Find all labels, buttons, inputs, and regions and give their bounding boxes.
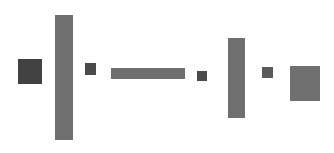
rect-8-medium-square: [290, 66, 320, 101]
rect-1-small-dark-square: [18, 59, 42, 84]
rect-5-tiny-square: [197, 71, 207, 81]
rect-3-tiny-square: [85, 63, 96, 75]
rect-6-tall-bar: [228, 38, 245, 118]
rect-2-tall-bar: [55, 15, 73, 140]
rect-4-long-horizontal-bar: [111, 68, 185, 79]
rect-7-tiny-square: [262, 67, 273, 78]
shape-canvas: [0, 0, 334, 153]
